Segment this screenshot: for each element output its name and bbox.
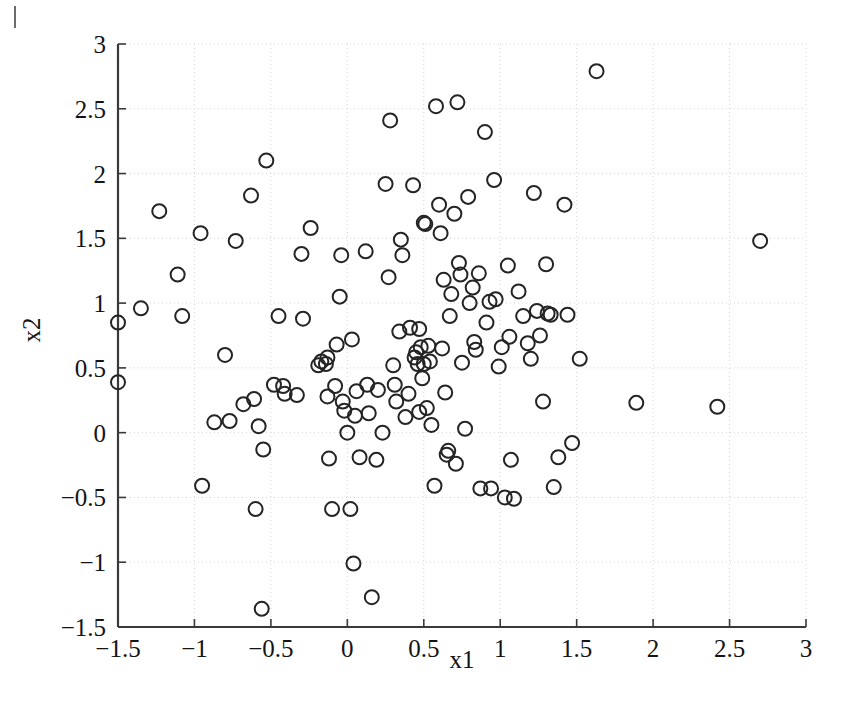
scatter-marker (444, 287, 458, 301)
scatter-marker (322, 452, 336, 466)
scatter-marker (753, 234, 767, 248)
scatter-marker (207, 415, 221, 429)
scatter-marker (437, 273, 451, 287)
scatter-marker (536, 395, 550, 409)
scatter-marker (398, 410, 412, 424)
scatter-marker (573, 352, 587, 366)
scatter-marker (533, 329, 547, 343)
scatter-marker (435, 341, 449, 355)
y-tick-label: −0.5 (61, 484, 106, 511)
scatter-marker (401, 387, 415, 401)
scatter-marker (346, 557, 360, 571)
y-tick-label: 3 (94, 31, 107, 58)
scatter-marker (447, 207, 461, 221)
scatter-marker (359, 244, 373, 258)
scatter-marker (501, 259, 515, 273)
scatter-marker (134, 301, 148, 315)
scatter-marker (383, 113, 397, 127)
scatter-marker (244, 189, 258, 203)
x-tick-label: 0.5 (408, 635, 439, 662)
scatter-marker (507, 492, 521, 506)
scatter-marker (386, 358, 400, 372)
scatter-marker (294, 247, 308, 261)
scatter-marker (479, 316, 493, 330)
scatter-marker (449, 457, 463, 471)
scatter-marker (382, 270, 396, 284)
figure-page: −1.5−1−0.500.511.522.53−1.5−1−0.500.511.… (0, 0, 850, 714)
scatter-marker (424, 418, 438, 432)
scatter-marker (249, 502, 263, 516)
scatter-marker (330, 338, 344, 352)
scatter-marker (171, 268, 185, 282)
scatter-marker (325, 502, 339, 516)
scatter-marker (434, 226, 448, 240)
scatter-marker (484, 481, 498, 495)
scatter-marker (512, 284, 526, 298)
scatter-marker (551, 450, 565, 464)
scatter-marker (353, 450, 367, 464)
scatter-marker (472, 266, 486, 280)
scatter-marker (362, 406, 376, 420)
scatter-marker (710, 400, 724, 414)
scatter-marker (194, 226, 208, 240)
scatter-marker (412, 322, 426, 336)
scatter-marker (218, 348, 232, 362)
scatter-marker (547, 480, 561, 494)
scatter-marker (369, 453, 383, 467)
scatter-marker (427, 479, 441, 493)
scatter-marker (345, 332, 359, 346)
scatter-marker (629, 396, 643, 410)
scatter-marker (328, 379, 342, 393)
y-tick-label: 1.5 (75, 225, 106, 252)
scatter-marker (415, 371, 429, 385)
y-axis-title: x2 (18, 318, 45, 343)
x-tick-label: 1 (494, 635, 507, 662)
x-tick-label: 1.5 (561, 635, 592, 662)
y-tick-label: 0.5 (75, 355, 106, 382)
scatter-marker (461, 190, 475, 204)
y-tick-label: 2 (94, 161, 107, 188)
scatter-marker (590, 64, 604, 78)
scatter-marker (502, 330, 516, 344)
scatter-marker (443, 309, 457, 323)
scatter-marker (458, 422, 472, 436)
scatter-marker (406, 178, 420, 192)
scatter-marker (432, 198, 446, 212)
y-tick-label: −1.5 (61, 614, 106, 641)
y-tick-label: 1 (94, 290, 107, 317)
scatter-marker (175, 309, 189, 323)
scatter-marker (524, 352, 538, 366)
scatter-marker (365, 590, 379, 604)
x-tick-label: −0.5 (248, 635, 293, 662)
scatter-marker (379, 177, 393, 191)
scatter-marker (565, 436, 579, 450)
scatter-marker (516, 309, 530, 323)
scatter-marker (394, 233, 408, 247)
scatter-marker (438, 386, 452, 400)
scatter-marker (152, 204, 166, 218)
scatter-marker (334, 248, 348, 262)
scatter-marker (539, 257, 553, 271)
y-tick-label: −1 (79, 549, 106, 576)
scatter-marker (527, 186, 541, 200)
scatter-plot-figure: −1.5−1−0.500.511.522.53−1.5−1−0.500.511.… (0, 0, 850, 714)
scatter-marker (333, 290, 347, 304)
scatter-marker (466, 281, 480, 295)
x-tick-label: 2 (647, 635, 660, 662)
scatter-marker (395, 248, 409, 262)
x-tick-label: −1 (181, 635, 208, 662)
scatter-marker (429, 99, 443, 113)
scatter-marker (256, 443, 270, 457)
scatter-marker (504, 453, 518, 467)
scatter-marker (272, 309, 286, 323)
axis-ticks (118, 44, 806, 627)
scatter-marker (487, 173, 501, 187)
scatter-marker (195, 479, 209, 493)
scatter-marker (229, 234, 243, 248)
scatter-marker (304, 221, 318, 235)
scatter-marker (478, 125, 492, 139)
x-tick-label: 2.5 (714, 635, 745, 662)
plot-canvas: −1.5−1−0.500.511.522.53−1.5−1−0.500.511.… (0, 0, 850, 714)
scatter-marker (223, 414, 237, 428)
scatter-marker (255, 602, 269, 616)
